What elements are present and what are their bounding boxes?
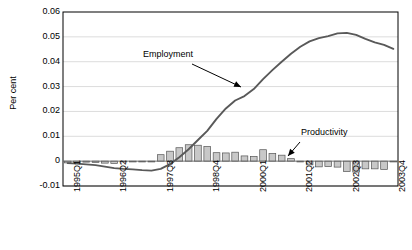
x-tick-label: 1998Q4 xyxy=(211,160,221,192)
bar-2001Q4 xyxy=(316,161,323,167)
bar-2002Q1 xyxy=(325,161,332,166)
bar-2002Q2 xyxy=(334,161,341,167)
plot-border xyxy=(63,12,398,186)
bar-2003Q2 xyxy=(371,161,378,169)
bar-1997Q3 xyxy=(157,155,164,161)
bar-1999Q2 xyxy=(222,153,229,161)
x-tick-label: 2003Q4 xyxy=(397,160,407,192)
annotation-arrow xyxy=(288,142,300,156)
x-tick-label: 2002Q3 xyxy=(351,160,361,192)
bar-2003Q3 xyxy=(381,161,388,169)
bar-2000Q4 xyxy=(278,155,285,161)
x-tick-label: 1996Q2 xyxy=(118,160,128,192)
bar-1999Q3 xyxy=(232,152,239,161)
x-tick-label: 2001Q2 xyxy=(304,160,314,192)
chart-plot-area xyxy=(0,0,412,250)
annotation-arrow xyxy=(192,64,241,87)
bar-2000Q3 xyxy=(269,153,276,161)
bar-2003Q1 xyxy=(362,161,369,169)
bar-1999Q4 xyxy=(241,156,248,161)
x-tick-label: 1995Q1 xyxy=(72,160,82,192)
annotation-label-productivity: Productivity xyxy=(301,127,348,137)
x-tick-label: 2000Q1 xyxy=(258,160,268,192)
bar-2000Q1 xyxy=(250,156,257,161)
bar-2002Q3 xyxy=(343,161,350,171)
bar-1998Q3 xyxy=(195,145,202,161)
chart-figure: Per cent -0.0100.010.020.030.040.050.06 … xyxy=(0,0,412,250)
annotation-label-employment: Employment xyxy=(143,49,193,59)
bar-1998Q4 xyxy=(204,146,211,161)
x-tick-label: 1997Q3 xyxy=(165,160,175,192)
line-series-employment xyxy=(68,33,394,171)
